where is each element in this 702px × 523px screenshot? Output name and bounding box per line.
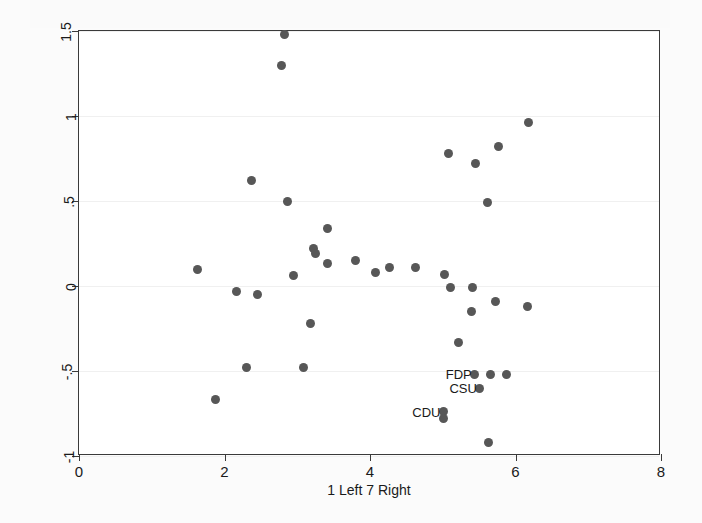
data-point (440, 270, 449, 279)
data-point (306, 319, 315, 328)
x-tick-mark (370, 454, 371, 461)
data-point (323, 259, 332, 268)
y-tick-label: 1.5 (57, 22, 73, 41)
x-tick-mark (225, 454, 226, 461)
gridline (79, 286, 659, 287)
data-point (289, 271, 298, 280)
data-point (486, 370, 495, 379)
data-point (277, 61, 286, 70)
data-point (232, 287, 241, 296)
data-point (494, 142, 503, 151)
y-tick-label: 0 (63, 283, 79, 291)
x-tick-label: 0 (75, 463, 83, 480)
data-point (351, 256, 360, 265)
data-point (385, 263, 394, 272)
data-point (484, 438, 493, 447)
gridline (79, 201, 659, 202)
gridline (79, 116, 659, 117)
y-tick-label: -1 (61, 450, 77, 462)
gridline (79, 31, 659, 32)
point-label-csu: CSU (449, 381, 479, 396)
data-point (454, 338, 463, 347)
data-point (502, 370, 511, 379)
data-point (467, 307, 476, 316)
x-tick-mark (661, 454, 662, 461)
data-point (211, 395, 220, 404)
data-point (491, 297, 500, 306)
data-point (311, 249, 320, 258)
data-point (371, 268, 380, 277)
data-point (446, 283, 455, 292)
data-point (242, 363, 251, 372)
x-tick-label: 2 (220, 463, 228, 480)
gridline (79, 371, 659, 372)
data-point (524, 118, 533, 127)
x-tick-label: 6 (511, 463, 519, 480)
y-tick-label: .5 (61, 196, 77, 208)
x-tick-mark (516, 454, 517, 461)
data-point (280, 30, 289, 39)
y-axis-title: Positive 2013 More Positive about EU Dem… (16, 0, 36, 50)
data-point (411, 263, 420, 272)
data-point (193, 265, 202, 274)
plot-area: -1-.50.511.5 02468 FDPCSUCDU (78, 30, 660, 455)
data-point (471, 159, 480, 168)
y-tick-label: 1 (63, 113, 79, 121)
gridline (79, 456, 659, 457)
point-label-cdu: CDU (412, 404, 443, 419)
data-point (283, 197, 292, 206)
data-point (523, 302, 532, 311)
data-point (247, 176, 256, 185)
data-point (253, 290, 262, 299)
data-point (483, 198, 492, 207)
figure-top-margin (30, 0, 670, 28)
data-point (444, 149, 453, 158)
x-tick-label: 4 (366, 463, 374, 480)
x-tick-label: 8 (657, 463, 665, 480)
data-point (468, 283, 477, 292)
y-tick-label: -.5 (59, 363, 75, 379)
x-tick-mark (79, 454, 80, 461)
scatter-plot-figure: -1-.50.511.5 02468 FDPCSUCDU Positive 20… (0, 0, 702, 523)
data-point (323, 224, 332, 233)
x-axis-title: 1 Left 7 Right (78, 482, 660, 498)
